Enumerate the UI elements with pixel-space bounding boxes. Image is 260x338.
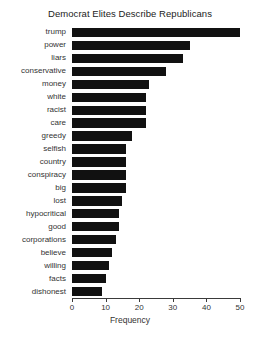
y-axis-tick-label: country <box>0 157 69 166</box>
bar <box>72 41 190 50</box>
y-axis-tick-label: facts <box>0 274 69 283</box>
y-axis-tick-label: dishonest <box>0 287 69 296</box>
y-axis-tick-label: greedy <box>0 131 69 140</box>
bar <box>72 28 240 37</box>
y-axis-tick-label: big <box>0 183 69 192</box>
x-axis-tick <box>240 299 241 302</box>
x-axis-tick-label: 0 <box>70 303 74 313</box>
plot-area <box>72 26 240 298</box>
y-axis-tick-label: liars <box>0 53 69 62</box>
y-axis-tick-label: hypocritical <box>0 209 69 218</box>
x-axis-tick <box>139 299 140 302</box>
bar <box>72 287 102 296</box>
bar <box>72 183 126 192</box>
y-axis-tick-label: white <box>0 92 69 101</box>
x-axis-line <box>72 298 241 299</box>
x-axis-tick-label: 40 <box>202 303 211 313</box>
bar <box>72 93 146 102</box>
bar <box>72 67 166 76</box>
y-axis-tick-label: willing <box>0 261 69 270</box>
bar <box>72 261 109 270</box>
bar <box>72 80 149 89</box>
x-axis-tick-label: 30 <box>168 303 177 313</box>
y-axis-tick-label: good <box>0 222 69 231</box>
bar <box>72 106 146 115</box>
y-axis-tick-label: racist <box>0 105 69 114</box>
y-axis-tick-label: care <box>0 118 69 127</box>
y-axis-labels: trumppowerliarsconservativemoneywhiterac… <box>0 26 69 298</box>
y-axis-tick-label: conservative <box>0 66 69 75</box>
x-axis-tick-label: 20 <box>135 303 144 313</box>
y-axis-tick-label: selfish <box>0 144 69 153</box>
bar <box>72 235 116 244</box>
bar <box>72 274 106 283</box>
x-axis-tick <box>106 299 107 302</box>
bar <box>72 118 146 127</box>
bar <box>72 54 183 63</box>
bar <box>72 144 126 153</box>
y-axis-tick-label: conspiracy <box>0 170 69 179</box>
bar <box>72 196 122 205</box>
bar <box>72 248 112 257</box>
y-axis-tick-label: trump <box>0 27 69 36</box>
bar <box>72 157 126 166</box>
x-axis-title: Frequency <box>0 315 260 325</box>
x-axis-tick-label: 50 <box>236 303 245 313</box>
y-axis-tick-label: believe <box>0 248 69 257</box>
y-axis-tick-label: lost <box>0 196 69 205</box>
bar <box>72 222 119 231</box>
chart-title: Democrat Elites Describe Republicans <box>0 8 260 20</box>
bar <box>72 131 132 140</box>
bar <box>72 170 126 179</box>
bar-chart: Democrat Elites Describe Republicans tru… <box>0 0 260 338</box>
x-axis-tick <box>206 299 207 302</box>
y-axis-tick-label: money <box>0 79 69 88</box>
x-axis-tick <box>173 299 174 302</box>
y-axis-tick-label: power <box>0 40 69 49</box>
x-axis-tick-label: 10 <box>101 303 110 313</box>
y-axis-tick-label: corporations <box>0 235 69 244</box>
bar <box>72 209 119 218</box>
x-axis-tick <box>72 299 73 302</box>
